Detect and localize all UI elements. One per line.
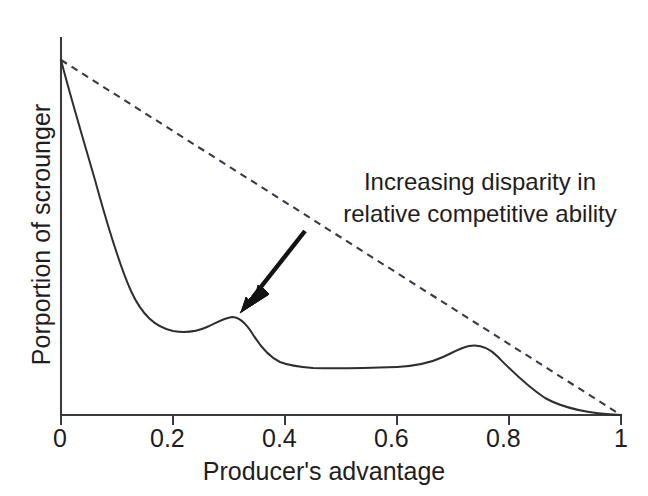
x-tick-label-0.6: 0.6: [374, 426, 409, 451]
chart-plot-area: [0, 0, 648, 496]
x-tick-label-0: 0: [53, 426, 67, 451]
annotation-text: Increasing disparity in relative competi…: [330, 166, 630, 229]
annotation-line-2: relative competitive ability: [330, 198, 630, 230]
x-tick-label-1: 1: [614, 426, 628, 451]
y-axis-title: Porportion of scrounger: [29, 55, 54, 415]
x-tick-label-0.2: 0.2: [150, 426, 185, 451]
reference-line-series: [61, 60, 621, 415]
x-tick-label-0.8: 0.8: [486, 426, 521, 451]
x-tick-label-0.4: 0.4: [262, 426, 297, 451]
annotation-arrow-head-fill: [240, 287, 269, 313]
x-axis-title: Producer's advantage: [0, 459, 648, 484]
chart-figure: 0 0.2 0.4 0.6 0.8 1 Producer's advantage…: [0, 0, 648, 496]
annotation-line-1: Increasing disparity in: [330, 166, 630, 198]
